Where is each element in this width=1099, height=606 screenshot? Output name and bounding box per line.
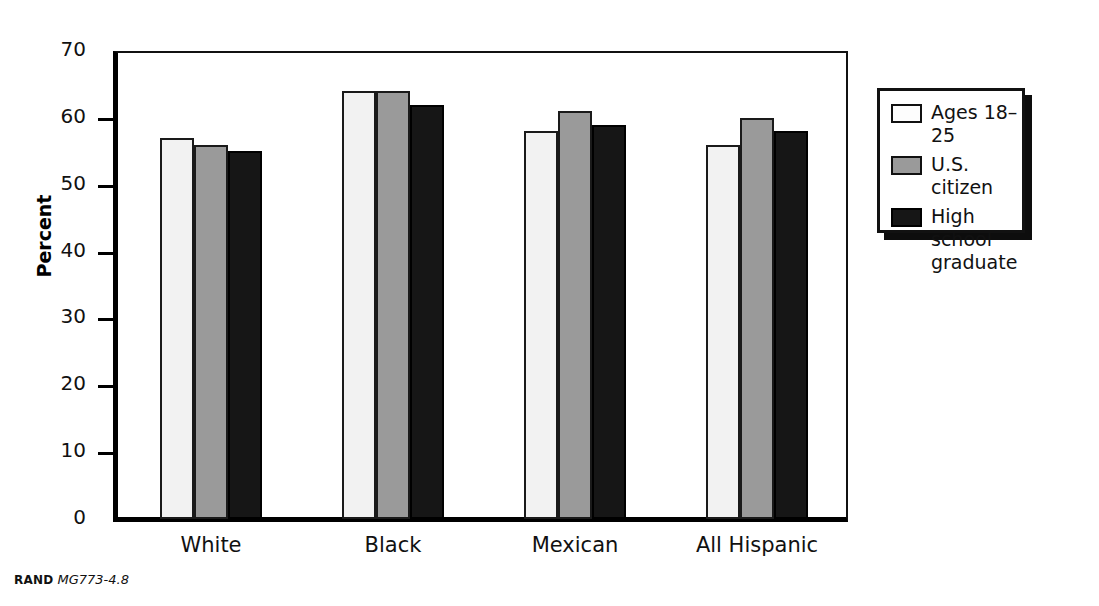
x-tick-label: White [121, 533, 301, 557]
bar [558, 111, 592, 519]
bar [524, 131, 558, 519]
y-tick-label: 60 [34, 104, 86, 128]
y-tick-mark [98, 185, 115, 188]
x-tick-label: Mexican [485, 533, 665, 557]
bar [342, 91, 376, 519]
y-tick-label: 30 [34, 304, 86, 328]
y-tick-mark [98, 452, 115, 455]
legend-label: High school graduate [931, 205, 1022, 274]
publisher-label: RAND [14, 573, 53, 587]
y-tick-mark [98, 385, 115, 388]
white-swatch [891, 104, 922, 123]
bar [592, 125, 626, 519]
y-tick-label: 50 [34, 171, 86, 195]
gray-swatch [891, 156, 922, 175]
bars-layer [118, 51, 846, 519]
y-tick-mark [98, 118, 115, 121]
y-axis-tick-labels: 010203040506070 [34, 0, 86, 606]
footer-caption: RAND MG773-4.8 [14, 572, 129, 587]
y-tick-label: 40 [34, 238, 86, 262]
bar [160, 138, 194, 519]
bar [228, 151, 262, 519]
legend: Ages 18–25U.S. citizenHigh school gradua… [877, 88, 1025, 233]
legend-item: High school graduate [891, 205, 1022, 274]
bar [410, 105, 444, 520]
legend-label: U.S. citizen [931, 153, 1022, 199]
x-tick-label: All Hispanic [667, 533, 847, 557]
legend-item: U.S. citizen [891, 153, 1022, 199]
bar [706, 145, 740, 519]
x-tick-label: Black [303, 533, 483, 557]
y-tick-label: 20 [34, 371, 86, 395]
bar [740, 118, 774, 519]
black-swatch [891, 208, 922, 227]
y-tick-mark [98, 252, 115, 255]
legend-item: Ages 18–25 [891, 101, 1022, 147]
legend-label: Ages 18–25 [931, 101, 1022, 147]
bar-chart-figure: Percent 010203040506070 WhiteBlackMexica… [0, 0, 1099, 606]
bar [774, 131, 808, 519]
document-id-label: MG773-4.8 [57, 572, 128, 587]
bar [194, 145, 228, 519]
y-tick-label: 70 [34, 37, 86, 61]
y-tick-label: 0 [34, 505, 86, 529]
bar [376, 91, 410, 519]
y-tick-mark [98, 318, 115, 321]
y-tick-label: 10 [34, 438, 86, 462]
